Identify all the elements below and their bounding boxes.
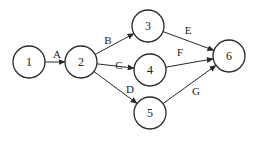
node-1: 1 bbox=[13, 46, 45, 78]
edge-label: G bbox=[192, 85, 200, 97]
edge-a: A bbox=[45, 48, 65, 62]
node-label: 4 bbox=[147, 63, 153, 77]
edge-c: C bbox=[97, 59, 134, 71]
node-label: 3 bbox=[145, 19, 151, 33]
edge-label: B bbox=[104, 34, 111, 46]
arrow-line bbox=[166, 59, 213, 67]
edge-g: G bbox=[163, 65, 216, 103]
edge-label: C bbox=[115, 59, 122, 71]
edge-label: A bbox=[53, 48, 61, 60]
edge-e: E bbox=[163, 24, 214, 50]
edge-label: D bbox=[126, 83, 134, 95]
network-diagram: ABCDEFG 123456 bbox=[0, 0, 260, 141]
arrow-line bbox=[163, 65, 216, 103]
edge-d: D bbox=[94, 72, 137, 104]
node-label: 1 bbox=[26, 55, 32, 69]
edge-f: F bbox=[166, 46, 213, 67]
node-5: 5 bbox=[134, 97, 166, 129]
arrow-line bbox=[95, 34, 134, 55]
node-label: 2 bbox=[78, 55, 84, 69]
node-6: 6 bbox=[213, 40, 245, 72]
edge-b: B bbox=[95, 34, 134, 55]
edge-label: E bbox=[185, 24, 192, 36]
node-3: 3 bbox=[132, 10, 164, 42]
node-label: 5 bbox=[147, 106, 153, 120]
node-4: 4 bbox=[134, 54, 166, 86]
node-2: 2 bbox=[65, 46, 97, 78]
edge-label: F bbox=[177, 46, 183, 58]
node-label: 6 bbox=[226, 49, 232, 63]
diagram-svg: ABCDEFG 123456 bbox=[0, 0, 260, 141]
